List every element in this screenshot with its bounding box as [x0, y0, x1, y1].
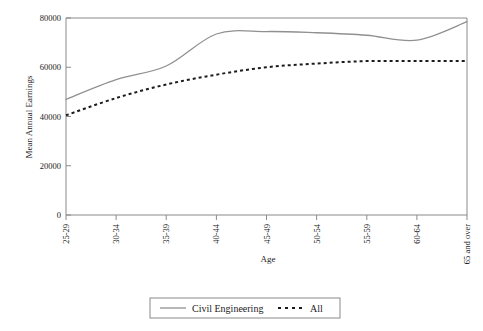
- legend-label-civil-engineering: Civil Engineering: [192, 303, 263, 314]
- x-tick-label: 55-59: [362, 224, 372, 244]
- x-tick-label: 65 and over: [462, 224, 472, 264]
- line-chart: 80000 60000 40000 20000 0 25-29 30-34 35…: [0, 0, 483, 331]
- x-tick-label: 35-39: [161, 224, 171, 244]
- series-all-line: [66, 61, 467, 115]
- series-civil-engineering-line: [66, 22, 467, 100]
- y-tick-label: 20000: [40, 161, 61, 171]
- y-tick-label: 60000: [40, 62, 61, 72]
- y-tick-label: 40000: [40, 112, 61, 122]
- y-tick-labels: 80000 60000 40000 20000 0: [40, 13, 61, 220]
- y-tick-label: 0: [57, 210, 61, 220]
- y-axis-title: Mean Annual Earnings: [24, 75, 34, 158]
- x-tick-label: 30-34: [111, 223, 121, 244]
- x-tick-label: 60-64: [412, 223, 422, 244]
- x-tick-label: 45-49: [262, 224, 272, 244]
- x-tick-label: 25-29: [61, 224, 71, 244]
- x-axis-title: Age: [261, 254, 276, 264]
- y-tick-marks: [66, 18, 71, 215]
- x-tick-label: 40-44: [211, 223, 221, 244]
- plot-axes: [66, 18, 467, 215]
- y-tick-label: 80000: [40, 13, 61, 23]
- x-tick-label: 50-54: [312, 223, 322, 244]
- chart-figure: 80000 60000 40000 20000 0 25-29 30-34 35…: [0, 0, 483, 331]
- x-tick-marks: [66, 215, 467, 220]
- chart-legend: Civil Engineering All: [150, 298, 340, 318]
- legend-label-all: All: [310, 303, 323, 314]
